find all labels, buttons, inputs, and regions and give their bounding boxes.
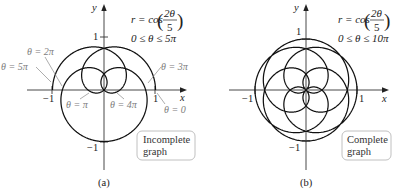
- panel-b: y x 1 −1 −1 1 r = cos ( 2θ 5 ) 0 ≤ θ ≤ 1…: [229, 2, 391, 189]
- y-axis-label: y: [293, 2, 299, 13]
- theta-annotations: θ = 2π θ = 5π θ = 3π θ = π θ = 4π θ = 0: [1, 46, 189, 115]
- panel-caption: (b): [300, 177, 313, 189]
- equation: r = cos ( 2θ 5 ) 0 ≤ θ ≤ 10π: [338, 7, 390, 44]
- x-tick-label-neg1: −1: [43, 93, 54, 104]
- note-line-1: Complete: [347, 134, 388, 145]
- y-tick-label-neg1: −1: [289, 142, 300, 153]
- equation-open-paren: (: [157, 10, 163, 32]
- x-tick-label-1: 1: [359, 93, 364, 104]
- panel-caption: (a): [98, 177, 110, 189]
- x-tick-label-1: 1: [153, 93, 158, 104]
- y-axis-arrow-icon: [303, 4, 308, 11]
- x-axis-label: x: [381, 93, 387, 104]
- y-tick-label-neg1: −1: [87, 142, 98, 153]
- equation-numerator: 2θ: [371, 7, 383, 19]
- equation-open-paren: (: [364, 10, 370, 32]
- annotation-theta-0: θ = 0: [164, 104, 186, 115]
- y-axis-label: y: [91, 2, 97, 13]
- annotation-theta-5pi: θ = 5π: [1, 61, 29, 72]
- x-axis-label: x: [179, 92, 185, 103]
- equation: r = cos ( 2θ 5 ) 0 ≤ θ ≤ 5π: [131, 7, 183, 44]
- annotation-theta-4pi: θ = 4π: [110, 99, 138, 110]
- equation-close-paren: ): [177, 10, 183, 32]
- equation-numerator: 2θ: [164, 7, 176, 19]
- leader-5pi: [36, 67, 51, 82]
- annotation-theta-pi: θ = π: [66, 99, 89, 110]
- note-line-2: graph: [347, 146, 372, 157]
- x-axis-arrow-icon: [382, 87, 389, 92]
- complete-graph-note: Complete graph: [342, 131, 391, 160]
- y-tick-label-1: 1: [296, 26, 301, 37]
- note-line-2: graph: [143, 146, 168, 157]
- x-tick-label-neg1: −1: [242, 93, 253, 104]
- theta-range: 0 ≤ θ ≤ 10π: [338, 32, 389, 44]
- incomplete-graph-note: Incomplete graph: [137, 131, 195, 160]
- y-tick-label-1: 1: [93, 31, 98, 42]
- y-axis-arrow-icon: [101, 4, 106, 11]
- panel-a: y x 1 −1 −1 1 r = cos ( 2θ 5 ) 0 ≤ θ ≤ 5…: [1, 2, 195, 189]
- annotation-theta-3pi: θ = 3π: [161, 61, 189, 72]
- annotation-theta-2pi: θ = 2π: [27, 46, 55, 57]
- note-line-1: Incomplete: [143, 134, 191, 145]
- figure: y x 1 −1 −1 1 r = cos ( 2θ 5 ) 0 ≤ θ ≤ 5…: [0, 0, 394, 194]
- theta-range: 0 ≤ θ ≤ 5π: [131, 32, 176, 44]
- equation-close-paren: ): [384, 10, 390, 32]
